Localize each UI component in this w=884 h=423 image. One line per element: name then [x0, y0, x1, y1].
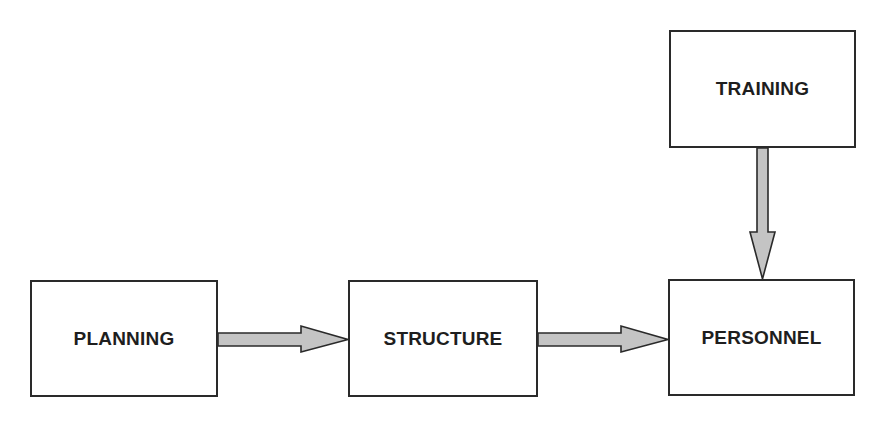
node-personnel: PERSONNEL — [668, 279, 855, 396]
node-label-personnel: PERSONNEL — [701, 327, 821, 349]
diagram-canvas: PLANNING STRUCTURE PERSONNEL TRAINING — [0, 0, 884, 423]
node-training: TRAINING — [669, 30, 856, 148]
node-label-planning: PLANNING — [74, 328, 175, 350]
node-planning: PLANNING — [30, 280, 218, 397]
arrow-planning-to-structure — [218, 326, 348, 352]
node-label-structure: STRUCTURE — [384, 328, 503, 350]
node-label-training: TRAINING — [716, 78, 809, 100]
arrow-training-to-personnel — [750, 148, 775, 279]
arrow-structure-to-personnel — [538, 326, 668, 352]
node-structure: STRUCTURE — [348, 280, 538, 397]
